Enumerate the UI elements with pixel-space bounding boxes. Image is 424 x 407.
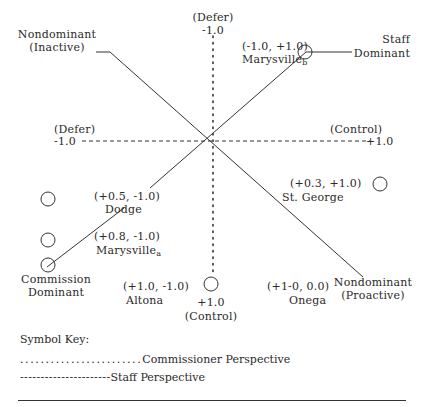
symbol-key-commissioner: ........................Commissioner Per… <box>20 353 290 366</box>
marker-st-george <box>373 177 387 191</box>
nondominant-proactive-label: Nondominant (Proactive) <box>328 276 418 302</box>
marysville-b-coords: (-1.0, +1.0) <box>242 40 308 53</box>
marysville-a-subscript: a <box>156 249 161 258</box>
bottom-axis-label: (Control) <box>181 310 241 323</box>
commission-dominant-line1: Commission <box>16 273 96 286</box>
st-george-coords: (+0.3, +1.0) <box>290 177 361 190</box>
marker-marysville-a <box>41 233 55 247</box>
staff-dominant-line1: Staff <box>340 33 410 46</box>
nondominant-inactive-line1: Nondominant <box>14 28 100 41</box>
top-axis-label: (Defer) <box>188 11 238 24</box>
symbol-key-title: Symbol Key: <box>20 333 89 346</box>
nondominant-inactive-line2: (Inactive) <box>14 41 100 54</box>
dominant-diagonal-upper <box>150 52 306 188</box>
nondominant-proactive-line2: (Proactive) <box>328 289 418 302</box>
right-axis-value: +1.0 <box>366 135 394 148</box>
bottom-rule <box>18 400 406 401</box>
staff-dominant-label: Staff Dominant <box>340 33 410 60</box>
altona-name: Altona <box>126 294 163 307</box>
dashed-line-sample: ---------------------- <box>20 371 111 384</box>
left-axis-value: -1.0 <box>54 135 76 148</box>
marysville-b-name: Marysvilleb <box>242 53 308 69</box>
staff-dominant-line2: Dominant <box>340 47 410 60</box>
onega-name: Onega <box>289 294 326 307</box>
marker-altona <box>204 277 218 291</box>
dodge-name: Dodge <box>105 203 142 216</box>
st-george-name: St. George <box>282 191 344 204</box>
nondominant-inactive-label: Nondominant (Inactive) <box>14 28 100 54</box>
marker-dodge <box>41 192 55 206</box>
bottom-axis-value: +1.0 <box>186 296 236 309</box>
staff-perspective-label: Staff Perspective <box>111 371 206 384</box>
commissioner-perspective-label: Commissioner Perspective <box>142 353 290 366</box>
commission-dominant-label: Commission Dominant <box>16 273 96 299</box>
marysville-a-text: Marysville <box>96 244 156 257</box>
commission-dominant-line2: Dominant <box>16 286 96 299</box>
dotted-line-sample: ........................ <box>20 353 142 366</box>
marysville-b-text: Marysville <box>242 53 302 66</box>
marysville-b-subscript: b <box>302 58 307 67</box>
altona-coords: (+1.0, -1.0) <box>123 280 189 293</box>
nondominant-proactive-line1: Nondominant <box>328 276 418 289</box>
symbol-key-staff: ----------------------Staff Perspective <box>20 371 205 384</box>
marysville-a-name: Marysvillea <box>96 244 161 260</box>
marker-commission-dominant <box>41 258 55 272</box>
top-axis-value: -1.0 <box>188 24 238 37</box>
onega-coords: (+1-0, 0.0) <box>267 280 329 293</box>
dodge-coords: (+0.5, -1.0) <box>94 190 160 203</box>
marysville-a-coords: (+0.8, -1.0) <box>94 230 160 243</box>
